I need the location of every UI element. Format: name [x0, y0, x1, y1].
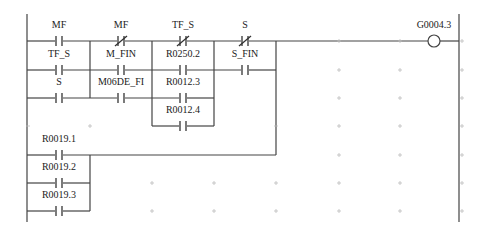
contact-no-icon [56, 93, 62, 103]
contact-label: S_FIN [215, 48, 275, 59]
contact-label: S [215, 19, 275, 30]
contact-label: MF [91, 19, 151, 30]
contact-label: MF [29, 19, 89, 30]
contact-no-icon [242, 65, 248, 75]
contact-no-icon [180, 93, 186, 103]
contact-label: R0012.4 [153, 104, 213, 115]
contact-label: R0012.3 [153, 76, 213, 87]
contact-label: R0019.2 [29, 161, 89, 172]
coil-icon [428, 35, 440, 47]
contact-label: TF_S [153, 19, 213, 30]
grid-marks [26, 39, 464, 213]
contact-no-icon [118, 65, 124, 75]
contact-label: R0250.2 [153, 48, 213, 59]
contact-label: M06DE_FI [91, 76, 151, 87]
contact-no-icon [180, 121, 186, 131]
contact-label: M_FIN [91, 48, 151, 59]
coil-label: G0004.3 [404, 19, 464, 30]
contact-label: S [29, 76, 89, 87]
contact-no-icon [56, 178, 62, 188]
contact-no-icon [56, 206, 62, 216]
contact-no-icon [56, 65, 62, 75]
contact-label: R0019.3 [29, 189, 89, 200]
contact-no-icon [180, 65, 186, 75]
contact-label: R0019.1 [29, 133, 89, 144]
contact-no-icon [56, 150, 62, 160]
contact-no-icon [118, 93, 124, 103]
contact-label: TF_S [29, 48, 89, 59]
contact-no-icon [56, 36, 62, 46]
